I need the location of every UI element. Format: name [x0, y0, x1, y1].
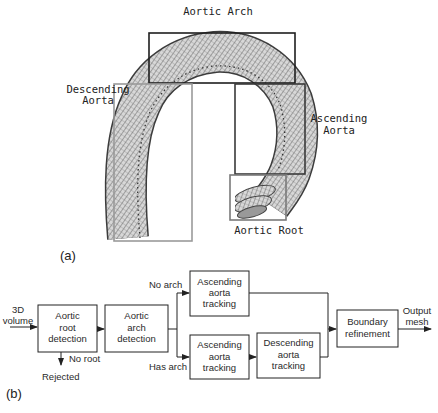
rejected-label: Rejected: [42, 371, 80, 382]
ascending-tracking-bottom-line1: Ascending: [197, 339, 241, 350]
panel-label-b: (b): [6, 386, 22, 401]
root-detection-line2: root: [59, 322, 76, 333]
boundary-refinement-line2: refinement: [345, 328, 390, 339]
no-root-label: No root: [69, 353, 101, 364]
arch-detection-line1: Aortic: [124, 310, 149, 321]
output-label-line2: mesh: [405, 316, 428, 327]
ascending-aorta-label-line1: Ascending: [311, 112, 368, 124]
output-label-line1: Output: [403, 305, 432, 316]
has-arch-label: Has arch: [149, 361, 187, 372]
no-arch-label: No arch: [149, 279, 182, 290]
aortic-root-rings: [233, 182, 277, 221]
aortic-root-label: Aortic Root: [234, 224, 304, 236]
panel-label-a: (a): [60, 248, 76, 263]
arch-detection-line3: detection: [117, 333, 156, 344]
input-label-line1: 3D: [12, 304, 24, 315]
descending-tracking-line3: tracking: [272, 360, 305, 371]
root-detection-line3: detection: [48, 333, 87, 344]
aortic-arch-label: Aortic Arch: [183, 5, 253, 17]
root-detection-line1: Aortic: [55, 310, 80, 321]
descending-tracking-line2: aorta: [278, 349, 300, 360]
ascending-tracking-top-line2: aorta: [209, 287, 231, 298]
arch-detection-line2: arch: [127, 322, 145, 333]
ascending-tracking-top-line1: Ascending: [197, 276, 241, 287]
ascending-aorta-label-line2: Aorta: [323, 124, 355, 136]
ascending-tracking-bottom-line2: aorta: [209, 351, 231, 362]
figure-canvas: Aortic Arch Descending Aorta Ascending A…: [0, 0, 438, 413]
descending-tracking-line1: Descending: [263, 337, 313, 348]
figure: Aortic Arch Descending Aorta Ascending A…: [0, 0, 438, 413]
boundary-refinement-line1: Boundary: [347, 316, 388, 327]
descending-aorta-label-line2: Aorta: [82, 94, 114, 106]
ascending-tracking-top-line3: tracking: [203, 298, 236, 309]
input-label-line2: volume: [3, 315, 34, 326]
ascending-tracking-bottom-line3: tracking: [203, 362, 236, 373]
aorta-mesh: [126, 52, 297, 244]
